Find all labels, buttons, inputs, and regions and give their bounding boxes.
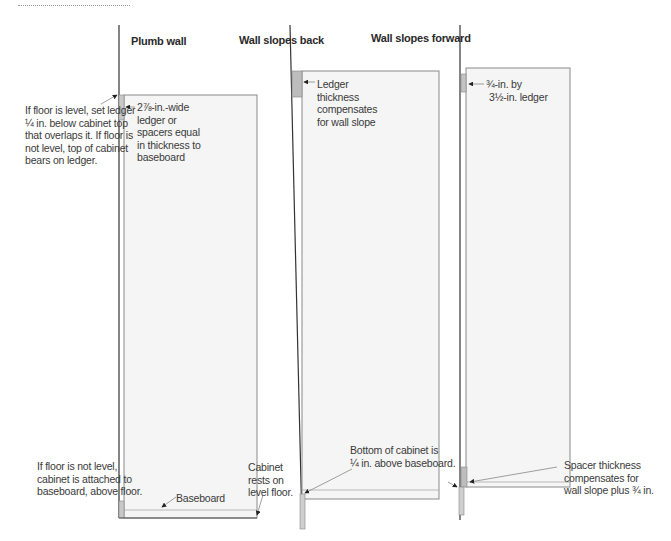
callout-line: baseboard, above floor. — [37, 485, 157, 498]
callout-line: cabinet is attached to — [37, 473, 157, 486]
callout-line: Ledger — [317, 78, 407, 91]
callout-ledger-width: 2⅞-in.-wide ledger or spacers equal in t… — [137, 101, 237, 164]
callout-line: compensates — [317, 103, 407, 116]
callout-line: ledger or — [137, 114, 237, 127]
callout-floor-not-level: If floor is not level, cabinet is attach… — [37, 460, 157, 498]
callout-cabinet-rests-on-floor: Cabinet rests on level floor. — [248, 461, 308, 499]
panel-title-wall-slopes-forward: Wall slopes forward — [371, 32, 471, 44]
callout-line: in thickness to — [137, 139, 237, 152]
callout-spacer-thickness: Spacer thickness compensates for wall sl… — [564, 459, 671, 497]
callout-line: that overlaps it. If floor is — [25, 129, 150, 142]
panel-title-wall-slopes-back: Wall slopes back — [239, 34, 324, 46]
callout-line: not level, top of cabinet — [25, 142, 150, 155]
callout-line: compensates for — [564, 472, 671, 485]
callout-line: Cabinet — [248, 461, 308, 474]
callout-line: Spacer thickness — [564, 459, 671, 472]
callout-line: 3½-in. ledger — [486, 91, 576, 104]
panel-title-plumb-wall: Plumb wall — [131, 35, 186, 47]
callout-line: spacers equal — [137, 126, 237, 139]
callout-line: rests on — [248, 474, 308, 487]
callout-bottom-of-cabinet: Bottom of cabinet is ¼ in. above baseboa… — [350, 444, 470, 469]
callout-line: wall slope plus ¾ in. — [564, 484, 671, 497]
callout-line: level floor. — [248, 486, 308, 499]
callout-line: If floor is not level, — [37, 460, 157, 473]
panel-plumb-wall — [101, 25, 263, 518]
callout-baseboard: Baseboard — [176, 492, 225, 505]
callout-line: Bottom of cabinet is — [350, 444, 470, 457]
callout-line: bears on ledger. — [25, 154, 150, 167]
callout-line: for wall slope — [317, 116, 407, 129]
callout-line: If floor is level, set ledger — [25, 104, 150, 117]
callout-line: ¾-in. by — [486, 78, 576, 91]
callout-line: thickness — [317, 91, 407, 104]
callout-ledger-size: ¾-in. by 3½-in. ledger — [486, 78, 576, 103]
callout-line: 2⅞-in.-wide — [137, 101, 237, 114]
callout-line: baseboard — [137, 151, 237, 164]
callout-line: ¼ in. below cabinet top — [25, 117, 150, 130]
callout-line: ¼ in. above baseboard. — [350, 457, 470, 470]
callout-ledger-thickness: Ledger thickness compensates for wall sl… — [317, 78, 407, 128]
callout-floor-level-ledger: If floor is level, set ledger ¼ in. belo… — [25, 104, 150, 167]
